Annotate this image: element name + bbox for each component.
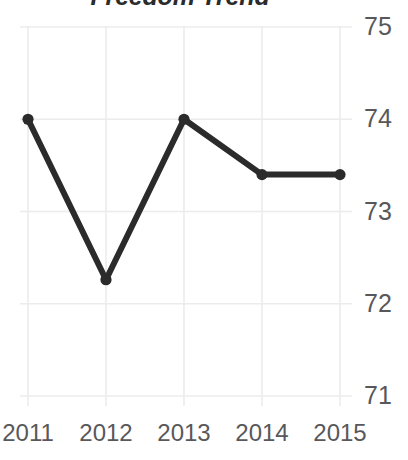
series-line [28,119,340,280]
data-point-marker [100,274,111,285]
x-axis-tick-label: 2014 [222,420,302,446]
y-axis-tick-label: 72 [364,291,408,316]
y-axis-tick-label: 73 [364,199,408,224]
data-series [0,0,360,412]
series-markers [22,114,345,286]
x-axis-tick-label: 2012 [66,420,146,446]
x-axis-tick-label: 2013 [144,420,224,446]
data-point-marker [334,169,345,180]
line-chart: Freedom Trend 7574737271 201120122013201… [0,0,408,460]
x-axis-tick-label: 2011 [0,420,68,446]
plot-area [0,0,360,412]
x-axis-tick-label: 2015 [300,420,380,446]
data-point-marker [22,114,33,125]
y-axis-tick-label: 71 [364,383,408,408]
y-axis-tick-label: 74 [364,106,408,131]
data-point-marker [178,114,189,125]
data-point-marker [256,169,267,180]
y-axis-tick-label: 75 [364,14,408,39]
